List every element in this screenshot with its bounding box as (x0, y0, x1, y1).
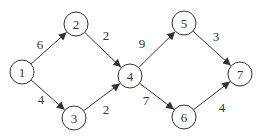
edge-weight-5-7: 3 (213, 29, 220, 44)
node-1: 1 (10, 60, 34, 84)
edge-weight-4-6: 7 (143, 93, 150, 108)
node-label: 6 (181, 110, 188, 125)
node-5: 5 (172, 11, 196, 35)
node-2: 2 (64, 12, 88, 36)
node-4: 4 (118, 64, 142, 88)
node-label: 5 (181, 16, 188, 31)
node-label: 2 (73, 17, 80, 32)
node-6: 6 (172, 105, 196, 129)
edge-weight-4-5: 9 (139, 36, 146, 51)
node-label: 7 (237, 67, 244, 82)
edge-1-3 (31, 80, 65, 110)
node-label: 4 (127, 69, 134, 84)
node-label: 3 (71, 111, 78, 126)
node-label: 1 (19, 65, 26, 80)
edge-weight-2-4: 2 (103, 28, 110, 43)
node-3: 3 (62, 106, 86, 130)
edge-weight-1-3: 4 (38, 92, 45, 107)
edge-weight-3-4: 2 (103, 102, 110, 117)
node-7: 7 (228, 62, 252, 86)
edge-weight-1-2: 6 (37, 37, 44, 52)
edge-weight-6-7: 4 (219, 100, 226, 115)
directed-graph: 64229734 1234567 (0, 0, 267, 139)
